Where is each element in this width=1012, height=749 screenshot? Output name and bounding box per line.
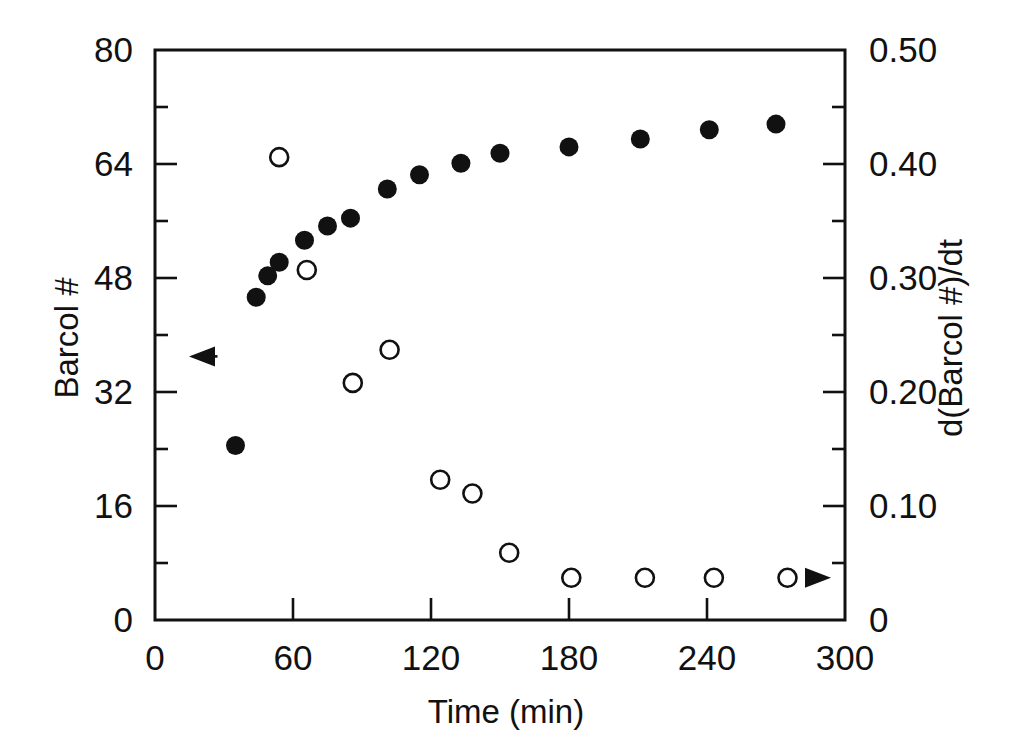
left-axis-ticks: [155, 107, 177, 563]
data-point-filled: [560, 137, 579, 156]
data-point-open: [431, 471, 449, 489]
bottom-tick-label: 240: [678, 638, 736, 677]
filled-circles-series: [226, 115, 786, 455]
right-tick-label: 0.20: [869, 372, 937, 411]
right-tick-label: 0.10: [869, 486, 937, 525]
data-point-open: [344, 374, 362, 392]
left-tick-label: 80: [94, 30, 133, 69]
y2-axis-title: d(Barcol #)/dt: [932, 239, 969, 437]
left-tick-label: 64: [94, 144, 133, 183]
right-axis-ticks: [823, 107, 845, 563]
data-point-filled: [318, 216, 337, 235]
data-point-open: [779, 569, 797, 587]
axes-frame-rect: [155, 50, 845, 620]
data-point-open: [562, 569, 580, 587]
right-arrow-icon: [805, 568, 831, 588]
data-point-open: [705, 569, 723, 587]
left-axis-tick-labels: 01632486480: [94, 30, 133, 639]
bottom-tick-label: 180: [540, 638, 598, 677]
data-point-filled: [341, 209, 360, 228]
y-axis-title: Barcol #: [48, 277, 85, 399]
axes-frame: [155, 50, 845, 620]
bottom-tick-label: 0: [145, 638, 164, 677]
chart-figure: 01632486480 00.100.200.300.400.50 060120…: [0, 0, 1012, 749]
data-point-open: [381, 341, 399, 359]
right-tick-label: 0: [869, 600, 888, 639]
right-tick-label: 0.30: [869, 258, 937, 297]
left-tick-label: 0: [114, 600, 133, 639]
data-point-filled: [491, 144, 510, 163]
data-point-filled: [270, 253, 289, 272]
data-point-filled: [295, 231, 314, 250]
bottom-tick-label: 120: [402, 638, 460, 677]
data-point-filled: [451, 154, 470, 173]
bottom-axis-tick-labels: 060120180240300: [145, 638, 874, 677]
data-point-filled: [378, 179, 397, 198]
bottom-tick-label: 300: [816, 638, 874, 677]
left-arrow-icon: [189, 346, 215, 366]
bottom-tick-label: 60: [274, 638, 313, 677]
left-tick-label: 32: [94, 372, 133, 411]
data-point-filled: [767, 115, 786, 134]
right-tick-label: 0.50: [869, 30, 937, 69]
data-point-filled: [700, 120, 719, 139]
data-point-open: [636, 569, 654, 587]
left-tick-label: 48: [94, 258, 133, 297]
right-tick-label: 0.40: [869, 144, 937, 183]
bottom-axis-ticks: [293, 598, 707, 620]
scatter-plot: 01632486480 00.100.200.300.400.50 060120…: [0, 0, 1012, 749]
x-axis-title: Time (min): [428, 693, 584, 730]
left-tick-label: 16: [94, 486, 133, 525]
right-axis-tick-labels: 00.100.200.300.400.50: [869, 30, 937, 639]
data-point-filled: [226, 436, 245, 455]
data-point-open: [270, 148, 288, 166]
data-point-filled: [247, 288, 266, 307]
data-point-open: [298, 261, 316, 279]
data-point-open: [500, 544, 518, 562]
data-point-filled: [631, 130, 650, 149]
data-point-open: [463, 484, 481, 502]
data-point-filled: [410, 165, 429, 184]
